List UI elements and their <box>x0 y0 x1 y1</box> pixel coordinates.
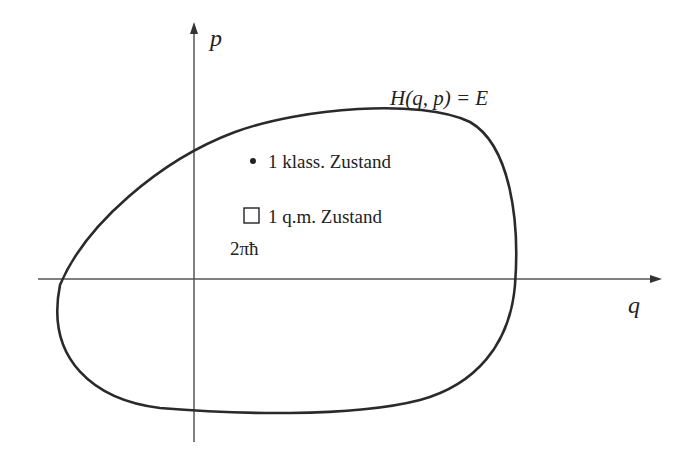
curve-equation-label: H(q, p) = E <box>390 88 488 109</box>
quantum-cell-square-icon <box>244 208 259 223</box>
p-axis-label: p <box>210 26 222 50</box>
quantum-state-label: 1 q.m. Zustand <box>268 207 382 226</box>
p-axis-arrow-icon <box>190 22 198 34</box>
q-axis-arrow-icon <box>650 275 662 283</box>
phase-space-diagram <box>0 0 689 464</box>
classical-state-label: 1 klass. Zustand <box>268 152 391 171</box>
q-axis-label: q <box>628 293 640 317</box>
cell-size-label: 2πħ <box>230 239 259 258</box>
classical-state-dot-icon <box>250 158 256 164</box>
